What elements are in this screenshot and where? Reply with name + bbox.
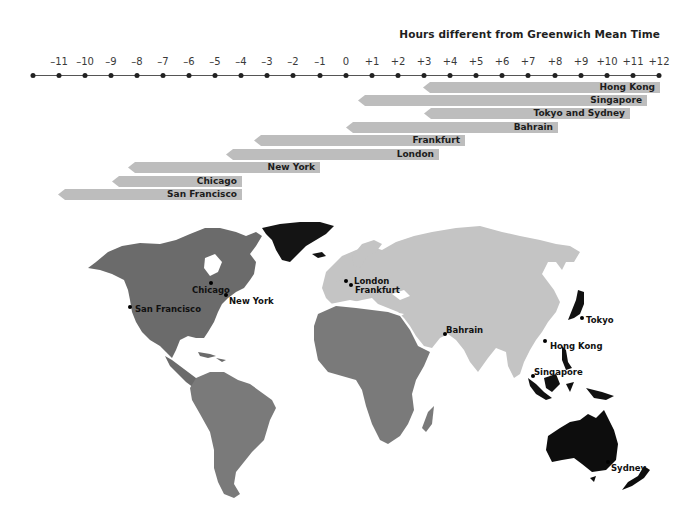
tick-dot	[83, 73, 88, 78]
city-dot	[606, 460, 610, 464]
tick-dot	[213, 73, 218, 78]
city-dot	[349, 283, 353, 287]
tasmania-shape	[590, 476, 596, 482]
city-label: Bahrain	[446, 325, 483, 335]
indonesia-shape	[528, 374, 614, 400]
time-range-bar: San Francisco	[58, 189, 242, 200]
tick-label: +12	[648, 56, 669, 67]
tick-label: –1	[314, 56, 325, 67]
bar-city-label: Frankfurt	[412, 134, 460, 147]
tick-label: –8	[131, 56, 142, 67]
tick-dot	[109, 73, 114, 78]
time-range-bar: Bahrain	[346, 122, 558, 133]
tick-dot	[135, 73, 140, 78]
tick-dot	[553, 73, 558, 78]
bar-city-label: San Francisco	[167, 188, 237, 201]
tick-dot	[161, 73, 166, 78]
tick-label: –5	[209, 56, 220, 67]
caribbean-islands	[198, 352, 226, 362]
tick-dot	[187, 73, 192, 78]
city-dot	[580, 316, 584, 320]
time-range-bar: Tokyo and Sydney	[424, 108, 630, 119]
tick-dot	[370, 73, 375, 78]
tick-label: –4	[235, 56, 246, 67]
city-label: New York	[229, 296, 274, 306]
tick-dot	[57, 73, 62, 78]
tick-label: +9	[574, 56, 589, 67]
city-label: Frankfurt	[355, 285, 400, 295]
city-dot	[224, 293, 228, 297]
city-dot	[128, 305, 132, 309]
time-range-bar: Singapore	[358, 95, 647, 106]
tick-label: –11	[50, 56, 68, 67]
tick-dot	[526, 73, 531, 78]
tick-label: +6	[495, 56, 510, 67]
tick-dot	[631, 73, 636, 78]
tick-dot	[396, 73, 401, 78]
tick-label: +10	[596, 56, 617, 67]
city-dot	[344, 279, 348, 283]
iceland-shape	[312, 252, 326, 258]
city-label: Sydney	[611, 463, 646, 473]
time-range-bar: London	[226, 149, 439, 160]
time-range-bar: Hong Kong	[423, 82, 660, 93]
city-label: Tokyo	[586, 315, 614, 325]
tick-label: –9	[105, 56, 116, 67]
time-range-bar: Frankfurt	[254, 135, 465, 146]
tick-label: 0	[343, 56, 349, 67]
city-label: Singapore	[534, 367, 583, 377]
bar-city-label: Tokyo and Sydney	[533, 107, 625, 120]
tick-dot	[422, 73, 427, 78]
bar-city-label: Bahrain	[514, 121, 553, 134]
tick-label: –10	[76, 56, 94, 67]
tick-label: +11	[622, 56, 643, 67]
tick-label: +5	[469, 56, 484, 67]
tick-label: –3	[261, 56, 272, 67]
city-label: Hong Kong	[550, 341, 602, 351]
tick-label: –2	[287, 56, 298, 67]
tick-label: +1	[365, 56, 380, 67]
tick-dot	[448, 73, 453, 78]
tick-dot	[579, 73, 584, 78]
south-america-shape	[190, 372, 276, 498]
tick-dot	[31, 73, 36, 78]
bar-city-label: London	[397, 148, 434, 161]
tick-dot	[265, 73, 270, 78]
bar-city-label: New York	[268, 161, 315, 174]
tick-label: –7	[157, 56, 168, 67]
bar-city-label: Singapore	[590, 94, 642, 107]
city-dot	[543, 339, 547, 343]
tick-dot	[318, 73, 323, 78]
tick-label: –6	[183, 56, 194, 67]
bar-city-label: Chicago	[197, 175, 237, 188]
tick-dot	[291, 73, 296, 78]
tick-dot	[657, 73, 662, 78]
tick-dot	[474, 73, 479, 78]
world-map	[0, 210, 696, 527]
madagascar-shape	[422, 406, 434, 432]
bar-city-label: Hong Kong	[599, 81, 655, 94]
tick-dot	[239, 73, 244, 78]
tick-dot	[605, 73, 610, 78]
tick-label: +7	[521, 56, 536, 67]
tick-label: +4	[443, 56, 458, 67]
tick-dot	[500, 73, 505, 78]
tick-label: +8	[548, 56, 563, 67]
tick-label: +2	[391, 56, 406, 67]
city-label: San Francisco	[135, 304, 201, 314]
tick-dot	[344, 73, 349, 78]
time-range-bar: Chicago	[112, 176, 242, 187]
tick-label: +3	[417, 56, 432, 67]
time-range-bar: New York	[128, 162, 320, 173]
